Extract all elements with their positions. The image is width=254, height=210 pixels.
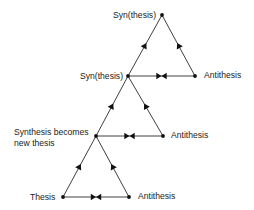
opposition-arrow-left-icon (130, 133, 135, 139)
opposition-arrow-right-icon (91, 194, 96, 200)
opposition-arrow-right-icon (156, 73, 161, 79)
label-thesis: Thesis (30, 192, 55, 202)
label-bottom-antithesis: Antithesis (138, 191, 175, 201)
node-thesis (61, 195, 65, 199)
label-mid-antithesis: Antithesis (171, 130, 208, 140)
node-antithesis1 (127, 195, 131, 199)
node-synthesis2 (126, 74, 130, 78)
node-antithesis3 (193, 74, 197, 78)
node-antithesis2 (161, 134, 165, 138)
edges-layer (63, 15, 195, 197)
label-mid-synthesis: Syn(thesis) (80, 71, 123, 81)
label-new-thesis-line1: Synthesis becomes (14, 127, 89, 137)
label-new-thesis-line2: new thesis (14, 138, 55, 148)
node-synthesis1 (94, 134, 98, 138)
label-top-synthesis: Syn(thesis) (113, 10, 156, 20)
node-synthesis3 (160, 13, 164, 17)
opposition-arrow-right-icon (124, 133, 129, 139)
opposition-arrow-left-icon (162, 73, 167, 79)
arrows-layer (75, 43, 183, 200)
dialectic-diagram (0, 0, 254, 210)
opposition-arrow-left-icon (96, 194, 101, 200)
label-top-antithesis: Antithesis (204, 70, 241, 80)
